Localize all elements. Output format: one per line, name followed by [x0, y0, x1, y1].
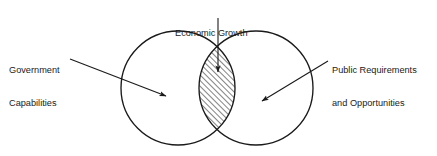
public-requirements-leader-line [262, 61, 328, 101]
label-public-requirements-line-2: and Opportunities [332, 98, 417, 109]
label-economic-growth-line-1: Economic Growth [175, 28, 248, 39]
venn-diagram: Economic Growth Government Capabilities … [0, 0, 437, 156]
label-government-capabilities: Government Capabilities [9, 43, 60, 131]
label-public-requirements: Public Requirements and Opportunities [332, 43, 417, 131]
label-economic-growth: Economic Growth [175, 6, 248, 61]
label-government-capabilities-line-2: Capabilities [9, 98, 60, 109]
government-capabilities-leader-line [70, 59, 166, 96]
label-government-capabilities-line-1: Government [9, 65, 60, 76]
label-public-requirements-line-1: Public Requirements [332, 65, 417, 76]
